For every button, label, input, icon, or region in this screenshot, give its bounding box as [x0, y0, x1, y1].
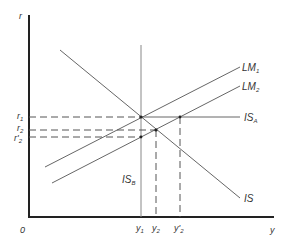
y2prime-label: y'2 — [173, 223, 184, 234]
x-axis-label: y — [269, 225, 275, 235]
equilibrium-point-1 — [139, 115, 142, 118]
equilibrium-point-4 — [140, 136, 143, 139]
lm1-label: LM1 — [242, 62, 259, 74]
equilibrium-point-3 — [179, 116, 182, 119]
lm2-curve — [52, 86, 240, 183]
lm2-label: LM2 — [242, 81, 260, 93]
y-axis-label: r — [19, 11, 23, 21]
isa-label: ISA — [244, 112, 257, 124]
isb-label: ISB — [122, 174, 135, 186]
is-lm-diagram: r y 0 r1 r2 r'2 y1 y2 y'2 LM1 LM2 ISA IS… — [0, 0, 288, 243]
y2-label: y2 — [151, 223, 161, 234]
origin-label: 0 — [20, 225, 25, 235]
is-label: IS — [244, 193, 254, 204]
r1-label: r1 — [17, 111, 23, 122]
is-curve — [60, 50, 240, 198]
r2prime-label: r'2 — [14, 133, 23, 144]
y1-label: y1 — [135, 223, 144, 234]
equilibrium-point-2 — [154, 128, 157, 131]
